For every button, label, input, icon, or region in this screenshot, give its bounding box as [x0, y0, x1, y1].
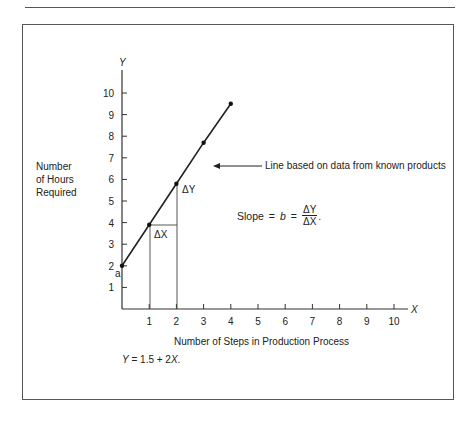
eq-x: X: [171, 354, 178, 365]
y-tick-label: 4: [108, 218, 114, 229]
y-tick-label: 3: [108, 239, 114, 250]
y-tick-label: 1: [108, 282, 114, 293]
y-tick-label: 7: [108, 153, 114, 164]
x-tick-label: 1: [146, 316, 152, 327]
y-tick-label: 10: [103, 88, 115, 99]
equals: =: [291, 210, 297, 222]
data-point: [229, 102, 233, 106]
y-tick-label: 6: [108, 174, 114, 185]
x-tick-label: 9: [364, 316, 370, 327]
fraction-denominator: ΔX: [303, 216, 316, 227]
eq-rest: = 1.5 + 2: [129, 354, 171, 365]
data-point: [174, 182, 178, 186]
slope-text: Slope: [237, 210, 264, 222]
slope-formula: Slope = b = ΔY ΔX .: [237, 204, 321, 227]
x-axis-label: Number of Steps in Production Process: [174, 336, 349, 347]
regression-equation: Y = 1.5 + 2X.: [122, 354, 180, 365]
y-tick-label: 2: [108, 261, 114, 272]
eq-y: Y: [122, 354, 129, 365]
x-tick-label: 2: [174, 316, 180, 327]
data-point: [201, 140, 205, 144]
x-axis-letter: X: [410, 304, 418, 315]
arrow-head-icon: [213, 163, 220, 169]
x-tick-label: 6: [282, 316, 288, 327]
fraction-numerator: ΔY: [302, 204, 317, 216]
y-tick-label: 9: [108, 110, 114, 121]
x-tick-label: 4: [228, 316, 234, 327]
equals: =: [269, 210, 275, 222]
line-annotation: Line based on data from known products: [265, 160, 446, 171]
slope-b: b: [280, 210, 286, 222]
y-label-line: Required: [36, 186, 77, 199]
period: .: [318, 210, 321, 222]
x-tick-label: 7: [310, 316, 316, 327]
x-tick-label: 10: [388, 316, 400, 327]
x-ticks: 12345678910: [146, 304, 400, 327]
eq-end: .: [178, 354, 181, 365]
x-tick-label: 5: [255, 316, 261, 327]
y-axis-label: Number of Hours Required: [36, 160, 77, 199]
x-tick-label: 8: [337, 316, 343, 327]
y-label-line: of Hours: [36, 173, 77, 186]
slope-fraction: ΔY ΔX: [302, 204, 317, 227]
y-tick-label: 5: [108, 196, 114, 207]
intercept-label: a: [115, 268, 121, 279]
y-label-line: Number: [36, 160, 77, 173]
delta-x-label: ΔX: [154, 229, 168, 240]
data-point: [147, 223, 151, 227]
delta-y-label: ΔY: [182, 184, 196, 195]
x-tick-label: 3: [201, 316, 207, 327]
y-tick-label: 8: [108, 131, 114, 142]
y-axis-letter: Y: [119, 57, 127, 68]
